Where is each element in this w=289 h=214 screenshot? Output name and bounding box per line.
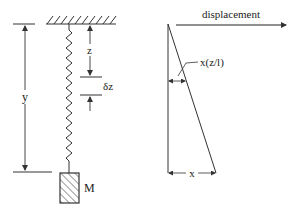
local-displacement-annotation: x(z/l) [169, 56, 224, 81]
y-label: y [22, 90, 28, 104]
dz-label: δz [103, 80, 113, 92]
z-dimension: z [87, 26, 92, 75]
ceiling-support [46, 16, 116, 24]
total-displacement-label: x [189, 167, 195, 179]
spring-mass-diagram: M y z δz displacement [0, 0, 289, 214]
left-panel: M y z δz [13, 16, 116, 203]
right-panel: displacement x(z/l) x [168, 8, 286, 179]
local-displacement-label: x(z/l) [200, 56, 224, 69]
total-displacement-annotation: x [169, 167, 215, 179]
displacement-label: displacement [202, 8, 260, 20]
displacement-axis: displacement [176, 8, 286, 25]
displacement-profile [168, 24, 216, 173]
mass-block: M [60, 173, 95, 203]
y-dimension: y [13, 24, 52, 172]
spring [66, 24, 72, 173]
mass-label: M [84, 181, 95, 195]
dz-dimension: δz [80, 77, 113, 111]
z-label: z [87, 44, 92, 56]
